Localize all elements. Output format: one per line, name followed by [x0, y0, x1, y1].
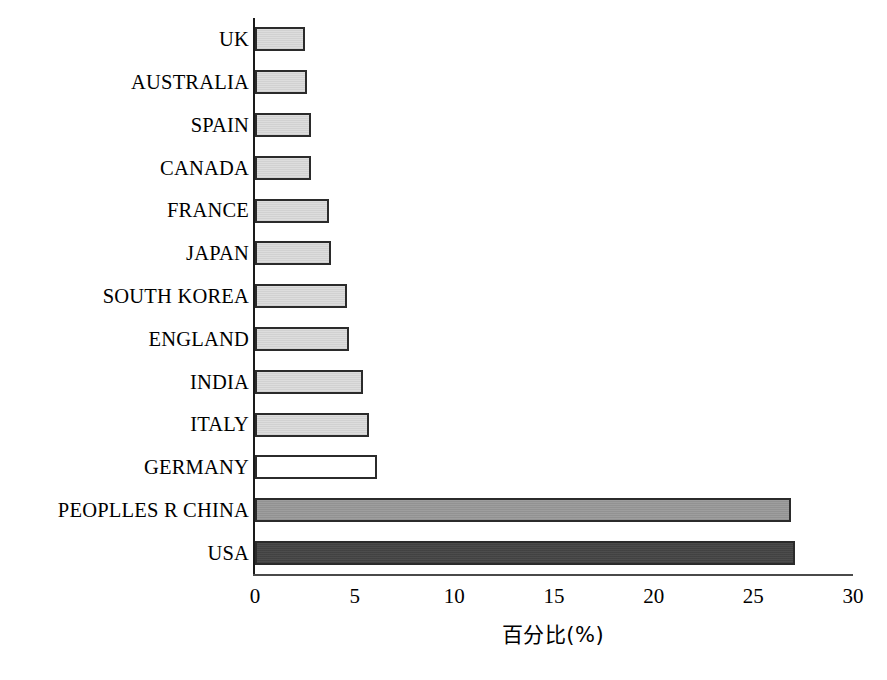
bar-row: SPAIN: [0, 104, 887, 147]
bar-row: ENGLAND: [0, 318, 887, 361]
x-tick-label: 25: [743, 586, 764, 607]
bar-germany: [255, 455, 377, 479]
bar-canada: [255, 156, 311, 180]
x-axis-ticks: 051015202530: [0, 576, 887, 610]
bar-rows: UKAUSTRALIASPAINCANADAFRANCEJAPANSOUTH K…: [0, 18, 887, 575]
bar-peoplles-r-china: [255, 498, 791, 522]
category-label: USA: [0, 543, 249, 564]
bar-wrapper: [255, 413, 369, 437]
category-label: SPAIN: [0, 115, 249, 136]
bar-chart: UKAUSTRALIASPAINCANADAFRANCEJAPANSOUTH K…: [0, 0, 887, 680]
bar-row: PEOPLLES R CHINA: [0, 489, 887, 532]
bar-australia: [255, 70, 307, 94]
category-label: ENGLAND: [0, 329, 249, 350]
category-label: UK: [0, 29, 249, 50]
x-tick-label: 30: [843, 586, 864, 607]
x-tick-label: 5: [349, 586, 360, 607]
x-axis-title: 百分比(%): [253, 618, 853, 648]
category-label: GERMANY: [0, 457, 249, 478]
bar-uk: [255, 27, 305, 51]
bar-england: [255, 327, 349, 351]
bar-wrapper: [255, 27, 305, 51]
category-label: CANADA: [0, 158, 249, 179]
bar-wrapper: [255, 455, 377, 479]
bar-wrapper: [255, 327, 349, 351]
bar-wrapper: [255, 113, 311, 137]
x-tick-label: 10: [444, 586, 465, 607]
bar-wrapper: [255, 498, 791, 522]
bar-row: SOUTH KOREA: [0, 275, 887, 318]
x-tick-label: 20: [643, 586, 664, 607]
bar-italy: [255, 413, 369, 437]
category-label: AUSTRALIA: [0, 72, 249, 93]
bar-wrapper: [255, 156, 311, 180]
bar-row: UK: [0, 18, 887, 61]
x-tick-label: 0: [250, 586, 261, 607]
bar-france: [255, 199, 329, 223]
bar-japan: [255, 241, 331, 265]
x-tick-label: 15: [544, 586, 565, 607]
bar-wrapper: [255, 541, 795, 565]
bar-india: [255, 370, 363, 394]
bar-row: FRANCE: [0, 189, 887, 232]
bar-wrapper: [255, 284, 347, 308]
bar-row: USA: [0, 532, 887, 575]
bar-usa: [255, 541, 795, 565]
category-label: PEOPLLES R CHINA: [0, 500, 249, 521]
category-label: INDIA: [0, 372, 249, 393]
category-label: ITALY: [0, 414, 249, 435]
bar-row: INDIA: [0, 360, 887, 403]
bar-wrapper: [255, 70, 307, 94]
bar-row: JAPAN: [0, 232, 887, 275]
bar-row: AUSTRALIA: [0, 61, 887, 104]
bar-wrapper: [255, 199, 329, 223]
category-label: FRANCE: [0, 200, 249, 221]
bar-row: CANADA: [0, 146, 887, 189]
bar-wrapper: [255, 370, 363, 394]
category-label: JAPAN: [0, 243, 249, 264]
bar-row: GERMANY: [0, 446, 887, 489]
bar-row: ITALY: [0, 403, 887, 446]
bar-wrapper: [255, 241, 331, 265]
bar-south-korea: [255, 284, 347, 308]
bar-spain: [255, 113, 311, 137]
category-label: SOUTH KOREA: [0, 286, 249, 307]
